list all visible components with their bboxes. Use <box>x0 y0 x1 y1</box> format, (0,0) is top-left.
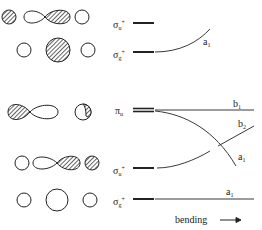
orbital-sigma-u-upper <box>2 10 89 24</box>
correlation-diagram <box>0 0 262 230</box>
bending-axis-label: bending <box>175 215 207 225</box>
orbital-sigma-g-lower <box>17 189 97 211</box>
orbital-pi-u <box>8 104 91 120</box>
orbital-sigma-g-upper <box>17 38 95 62</box>
bent-label-a1-middle: a1 <box>238 152 245 165</box>
orbital-sigma-u-lower <box>15 156 99 170</box>
level-label-pi-u: πu <box>115 106 123 119</box>
bent-label-a1-upper: a1 <box>203 37 210 50</box>
bent-label-b1: b1 <box>233 99 241 112</box>
bent-label-a1-lower: a1 <box>226 187 233 200</box>
level-label-sigma-u-lower: σu+ <box>113 163 125 179</box>
level-label-sigma-u-upper: σu+ <box>113 17 125 33</box>
level-label-sigma-g-lower: σg+ <box>113 194 125 210</box>
level-label-sigma-g-upper: σg+ <box>113 47 125 63</box>
bent-label-b2: b2 <box>238 119 246 132</box>
